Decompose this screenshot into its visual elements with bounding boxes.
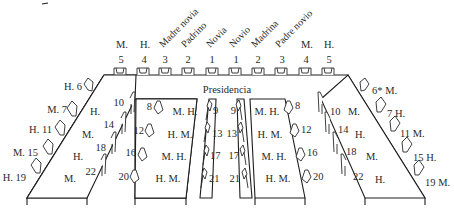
seat-number: 22 [353, 171, 364, 182]
seat-label: 19 M. [425, 177, 450, 188]
seat-number: 3 [162, 54, 167, 65]
seat-number: 18 [346, 146, 357, 157]
seat-number: 1 [209, 54, 214, 65]
seat-number: 13 [227, 128, 238, 139]
gender-label: H. [90, 106, 100, 117]
seat-label: 7 H. [387, 108, 405, 119]
seat-number: 3 [279, 54, 284, 65]
seat-number: 22 [86, 166, 97, 177]
seat-number: 10 [330, 106, 341, 117]
gender-pair-label: M. H. [255, 106, 280, 117]
gender-pair-label: M. H. [262, 151, 287, 162]
seat-number: 16 [126, 147, 137, 158]
seat-number: 5 [326, 54, 331, 65]
seat-label: 11 M. [400, 128, 425, 139]
seat-number: 18 [96, 142, 107, 153]
chair-icon [137, 68, 149, 75]
seat-number: 17 [229, 150, 240, 161]
seat-number: 8 [295, 100, 300, 111]
seat-number: 14 [104, 119, 115, 130]
seat-role: H. [324, 39, 334, 50]
seat-number: 10 [114, 97, 125, 108]
seating-diagram: Presidencia 5 4 3 2 1 1 2 3 4 5 M. H. Ma… [0, 0, 454, 224]
head-seat-roles: M. H. Madre novia Padrino Novia Novio Ma… [116, 5, 334, 50]
gender-label: H. [375, 174, 385, 185]
gender-pair-label: H. M. [266, 173, 291, 184]
seat-number: 13 [212, 128, 223, 139]
chair-icon [229, 68, 241, 75]
chair-icon [84, 78, 93, 91]
table-4-legs [365, 198, 425, 205]
table-2-legs [135, 198, 186, 205]
seat-number: 9 [231, 105, 236, 116]
chair-icon [31, 158, 41, 173]
seat-number: 2 [185, 54, 190, 65]
seat-label: 6* M. [372, 85, 397, 96]
seat-role: M. [301, 39, 313, 50]
gender-pair-label: M. H. [162, 151, 187, 162]
gender-label: M. [366, 151, 378, 162]
chair-icon [182, 68, 194, 75]
seat-number: 2 [255, 54, 260, 65]
seat-role: M. [116, 39, 128, 50]
seat-label: M. 15 [13, 147, 38, 158]
gender-label: M. [64, 173, 76, 184]
seat-number: 21 [230, 173, 241, 184]
seat-number: 12 [134, 125, 145, 136]
seat-number: 21 [209, 173, 220, 184]
gender-pair-label: H. M. [258, 129, 283, 140]
seat-role: Novio [227, 24, 252, 49]
seat-number: 4 [303, 54, 309, 65]
seat-number: 20 [313, 171, 324, 182]
chair-icon [341, 154, 346, 176]
chair-icon [360, 78, 369, 91]
chair-icon [114, 68, 126, 75]
chair-icon [55, 120, 65, 135]
gender-pair-label: H. M. [156, 173, 181, 184]
chair-icon [299, 68, 311, 75]
seat-number: 5 [118, 54, 123, 65]
seat-label: H. 6 [64, 81, 82, 92]
chair-icon [322, 68, 334, 75]
table-1-legs [27, 198, 87, 205]
chair-icon [402, 137, 412, 152]
presidencia-label: Presidencia [203, 84, 252, 95]
head-seat-numbers: 5 4 3 2 1 1 2 3 4 5 [118, 54, 331, 65]
head-table-chairs [114, 68, 334, 75]
gender-label: M. [348, 106, 360, 117]
seat-number: 12 [301, 124, 312, 135]
chair-icon [159, 68, 171, 75]
seat-number: 9 [213, 105, 218, 116]
seat-number: 14 [338, 124, 349, 135]
chair-icon [206, 68, 218, 75]
chair-icon [302, 170, 311, 183]
chair-icon [43, 139, 53, 154]
chair-icon [376, 97, 386, 112]
seat-number: 17 [210, 150, 221, 161]
chair-icon [275, 68, 287, 75]
gender-label: H. [73, 151, 83, 162]
gender-pair-label: M. H. [173, 106, 198, 117]
seat-number: 16 [307, 147, 318, 158]
seat-label: M. 7 [47, 104, 67, 115]
seat-label: H. 11 [29, 124, 52, 135]
chair-icon [252, 68, 264, 75]
seat-label: H. 19 [3, 172, 26, 183]
gender-pair-label: H. M. [168, 129, 193, 140]
chair-icon [67, 101, 77, 116]
gender-label: M. [82, 129, 94, 140]
seat-label: 15 H. [413, 152, 436, 163]
seat-number: 20 [119, 171, 130, 182]
seat-role: H. [140, 39, 150, 50]
table-3-legs [255, 198, 305, 205]
gender-label: H. [355, 129, 365, 140]
stray-mark [42, 3, 48, 4]
seat-number: 1 [233, 54, 238, 65]
seat-number: 8 [147, 101, 152, 112]
seat-number: 4 [141, 54, 147, 65]
